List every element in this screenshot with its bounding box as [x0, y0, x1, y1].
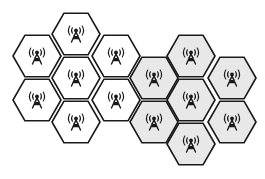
hex-cell-a-bottom: [52, 101, 100, 143]
cluster-b: [130, 35, 256, 165]
hex-shape: [208, 101, 256, 143]
hex-cell-a-top: [52, 13, 100, 55]
hex-shape: [92, 79, 140, 121]
hex-cell-b-upper-right: [208, 57, 256, 99]
hex-cell-a-lower-right: [92, 79, 140, 121]
cluster-a: [13, 13, 140, 143]
hex-shape: [13, 79, 61, 121]
hex-shape: [208, 57, 256, 99]
hex-cell-a-upper-right: [92, 35, 140, 77]
hex-cell-a-lower-left: [13, 79, 61, 121]
hex-shape: [52, 13, 100, 55]
hex-shape: [92, 35, 140, 77]
cell-clusters: [13, 13, 256, 165]
hex-shape: [52, 57, 100, 99]
hex-cell-a-upper-left: [13, 35, 61, 77]
hex-cell-b-lower-right: [208, 101, 256, 143]
hex-shape: [52, 101, 100, 143]
hex-cell-a-center: [52, 57, 100, 99]
cellular-hex-diagram: [0, 0, 265, 179]
hex-shape: [13, 35, 61, 77]
